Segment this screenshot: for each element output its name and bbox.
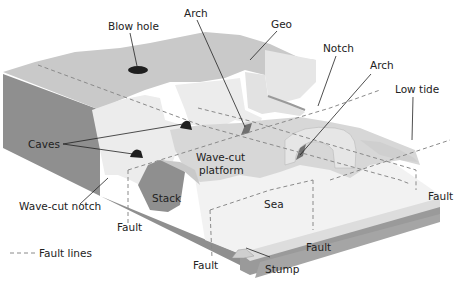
label-stump: Stump xyxy=(265,263,300,275)
leader-low-tide xyxy=(412,97,413,140)
label-wave-cut-platform-1: Wave-cut xyxy=(196,151,245,163)
label-fault-middle: Fault xyxy=(306,241,331,253)
label-sea: Sea xyxy=(264,198,284,210)
label-fault-right: Fault xyxy=(428,190,453,202)
label-fault-left: Fault xyxy=(117,221,142,233)
label-fault-bottom: Fault xyxy=(193,259,218,271)
geo-cliff-block xyxy=(265,50,316,102)
label-wave-cut-platform-2: platform xyxy=(199,164,244,176)
label-low-tide: Low tide xyxy=(395,83,439,95)
label-arch-top: Arch xyxy=(184,7,208,19)
label-geo: Geo xyxy=(271,18,292,30)
legend: Fault lines xyxy=(10,247,92,259)
leader-notch xyxy=(318,56,336,106)
label-stack: Stack xyxy=(152,192,182,204)
coastal-landforms-diagram: Blow hole Arch Geo Notch Arch Low tide C… xyxy=(0,0,470,281)
legend-fault-lines-label: Fault lines xyxy=(39,247,92,259)
label-blow-hole: Blow hole xyxy=(108,20,159,32)
blow-hole-shape xyxy=(128,66,148,74)
label-caves: Caves xyxy=(28,138,60,150)
label-notch: Notch xyxy=(323,42,354,54)
stack xyxy=(138,160,200,212)
label-wave-cut-notch: Wave-cut notch xyxy=(19,200,101,212)
label-arch-right: Arch xyxy=(370,59,394,71)
